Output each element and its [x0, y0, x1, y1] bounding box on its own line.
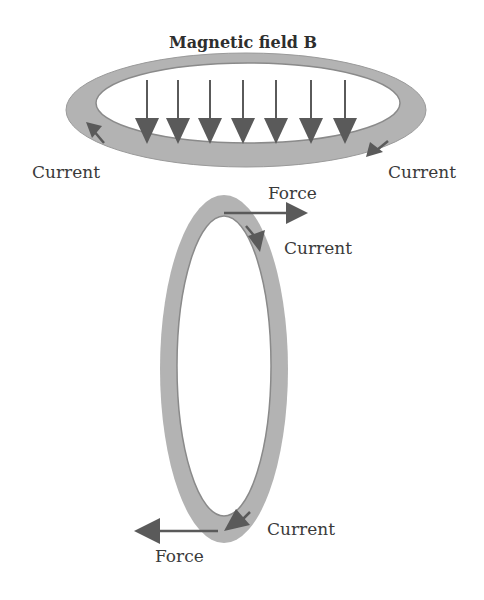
vertical-loop — [160, 195, 288, 543]
magnetic-force-diagram: Magnetic field B Current Current Force — [0, 0, 484, 600]
force-label: Force — [268, 183, 317, 203]
force-label: Force — [155, 546, 204, 566]
current-label: Current — [388, 162, 456, 182]
diagram-title: Magnetic field B — [169, 33, 317, 52]
current-label: Current — [32, 162, 100, 182]
current-label: Current — [284, 238, 352, 258]
current-label: Current — [267, 519, 335, 539]
